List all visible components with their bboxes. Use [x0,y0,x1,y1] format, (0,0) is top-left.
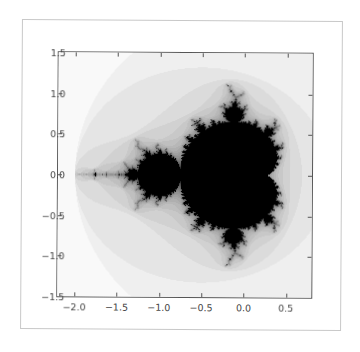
plot-area [56,51,313,299]
x-tick-mark [244,293,245,297]
x-tick-mark [287,54,288,58]
y-tick-mark [58,93,62,94]
x-tick-mark [160,53,161,57]
x-tick-mark [245,53,246,57]
x-tick-mark [74,292,75,296]
x-tick-mark [201,293,202,297]
x-tick-mark [203,53,204,57]
x-tick-label: −0.5 [190,302,213,313]
y-tick-mark [308,135,312,136]
y-tick-mark [58,215,62,216]
y-tick-mark [308,94,312,95]
y-tick-mark [58,174,62,175]
x-tick-mark [117,293,118,297]
y-tick-mark [308,176,312,177]
y-tick-mark [308,216,312,217]
x-tick-label: 0.5 [278,303,293,314]
y-tick-label: −1.5 [41,291,64,302]
x-tick-mark [286,294,287,298]
figure-frame: 1.51.00.50.0−0.5−1.0−1.5 −2.0−1.5−1.0−0.… [20,19,343,331]
x-tick-label: −1.5 [105,302,128,313]
x-tick-label: 0.0 [236,302,251,313]
y-tick-mark [307,257,311,258]
x-axis: −2.0−1.5−1.0−0.50.00.5 [23,20,342,22]
x-tick-label: −1.0 [147,302,170,313]
x-tick-mark [118,53,119,57]
x-tick-mark [159,293,160,297]
y-tick-label: 1.5 [51,47,66,58]
y-tick-mark [57,256,61,257]
x-tick-mark [76,52,77,56]
mandelbrot-heatmap [57,52,312,298]
y-tick-mark [58,134,62,135]
x-tick-label: −2.0 [63,301,86,312]
y-axis: 1.51.00.50.0−0.5−1.0−1.5 [23,20,342,22]
